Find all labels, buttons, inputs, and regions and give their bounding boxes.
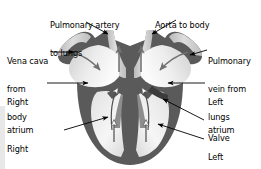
label-left-atrium-line1: Left <box>208 98 234 107</box>
label-pulmonary-artery-line1: Pulmonary artery <box>50 21 120 30</box>
label-right-ventricle-line1: Right <box>7 145 42 154</box>
label-left-ventricle-line1: Left <box>208 153 243 162</box>
label-right-ventricle: Right ventricle <box>7 126 42 169</box>
label-left-ventricle: Left ventricle <box>208 134 243 169</box>
label-aorta: Aorta to body <box>155 2 209 49</box>
label-pulmonary-artery: Pulmonary artery to lungs <box>50 2 120 77</box>
label-right-atrium-line1: Right <box>7 98 33 107</box>
heart-diagram-canvas: Pulmonary artery to lungs Aorta to body … <box>0 0 261 169</box>
label-vena-cava-line1: Vena cava <box>7 57 48 66</box>
label-pulmonary-artery-line2: to lungs <box>50 49 120 58</box>
label-aorta-line1: Aorta to body <box>155 21 209 30</box>
label-pulmonary-vein-line1: Pulmonary <box>208 57 251 66</box>
